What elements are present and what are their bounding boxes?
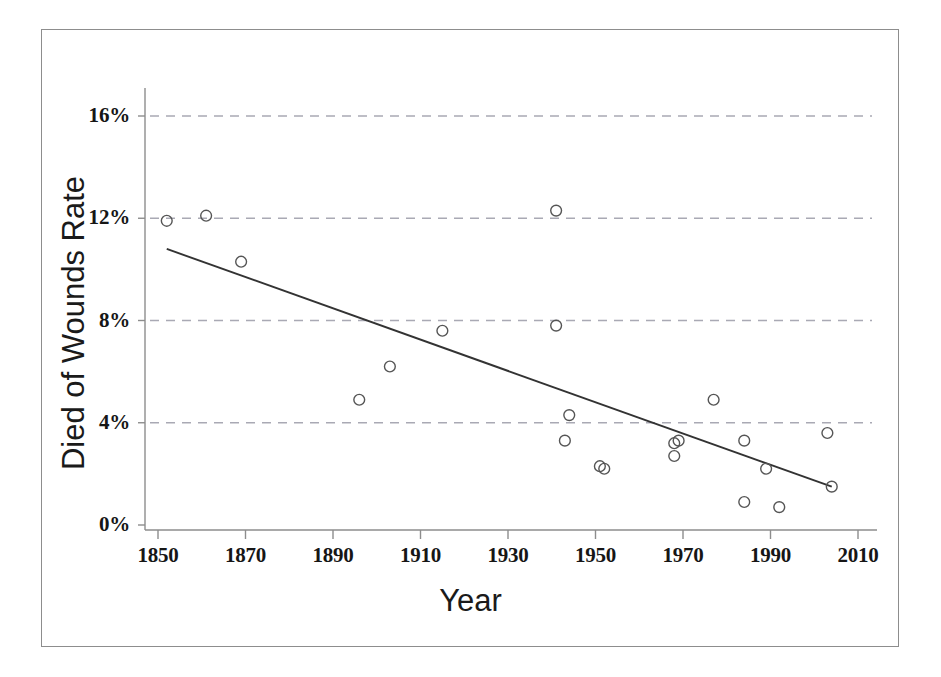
data-point: [669, 451, 680, 462]
data-point: [201, 210, 212, 221]
x-tick-label: 1850: [118, 543, 198, 568]
data-point: [236, 256, 247, 267]
x-tick-label: 1910: [381, 543, 461, 568]
data-point: [739, 497, 750, 508]
data-point: [551, 320, 562, 331]
x-tick-label: 1870: [206, 543, 286, 568]
x-tick-label: 1950: [556, 543, 636, 568]
data-point: [559, 435, 570, 446]
gridlines: [150, 116, 872, 423]
data-point: [564, 410, 575, 421]
y-axis-ticks: [138, 116, 145, 525]
data-points: [161, 205, 837, 512]
x-axis-ticks: [158, 530, 858, 539]
trendline: [167, 249, 832, 487]
data-point: [437, 325, 448, 336]
data-point: [761, 463, 772, 474]
y-axis-title: Died of Wounds Rate: [56, 123, 92, 523]
data-point: [384, 361, 395, 372]
data-point: [354, 394, 365, 405]
x-axis-title: Year: [0, 583, 941, 619]
data-point: [774, 502, 785, 513]
data-point: [708, 394, 719, 405]
trendline-segment: [167, 249, 832, 487]
data-point: [822, 428, 833, 439]
data-point: [551, 205, 562, 216]
scatter-plot: [0, 0, 941, 677]
x-tick-label: 1990: [731, 543, 811, 568]
x-tick-label: 2010: [818, 543, 898, 568]
chart-figure: 16%12%8%4%0% 185018701890191019301950197…: [0, 0, 941, 677]
data-point: [161, 215, 172, 226]
data-point: [739, 435, 750, 446]
x-tick-label: 1890: [293, 543, 373, 568]
x-tick-label: 1930: [468, 543, 548, 568]
x-tick-label: 1970: [643, 543, 723, 568]
